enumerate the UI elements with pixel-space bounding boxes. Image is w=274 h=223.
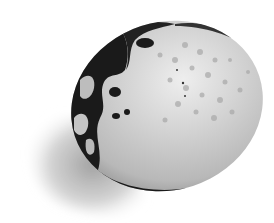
egg-illustration: Grayscale illustration of a spotted egg … [0,0,274,223]
egg-svg [0,0,274,223]
